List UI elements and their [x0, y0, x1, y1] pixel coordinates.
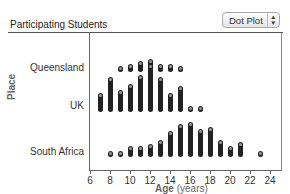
x-tick-label: 20: [220, 175, 240, 186]
x-tick-label: 24: [260, 175, 280, 186]
dot-column: [238, 142, 243, 157]
x-tick-label: 22: [240, 175, 260, 186]
dot-column: [138, 146, 143, 157]
dot-column: [138, 61, 143, 72]
x-tick-label: 10: [120, 175, 140, 186]
dot-column: [168, 64, 173, 72]
x-axis-label: Age: [155, 183, 174, 194]
dot-column: [168, 131, 173, 157]
plot-type-dropdown[interactable]: Dot Plot ▲▼: [222, 12, 280, 28]
dot-column: [98, 93, 103, 112]
x-tick: [90, 171, 91, 174]
plot-type-value: Dot Plot: [229, 15, 263, 26]
x-tick-label: 6: [80, 175, 100, 186]
dot-column: [118, 66, 123, 72]
x-tick: [110, 171, 111, 174]
dot-column: [228, 146, 233, 157]
x-tick: [170, 171, 171, 174]
dot-column: [198, 129, 203, 157]
dot-column: [128, 64, 133, 72]
dot-column: [108, 77, 113, 112]
dot-column: [208, 127, 213, 157]
dot-column: [118, 151, 123, 157]
dot-column: [188, 122, 193, 157]
dot-column: [158, 77, 163, 112]
dot-column: [118, 90, 123, 112]
x-axis-title: Age (years): [155, 183, 208, 194]
dot-column: [188, 106, 193, 112]
y-label-queensland: Queensland: [30, 62, 84, 73]
dot-column: [178, 86, 183, 112]
dot-column: [218, 140, 223, 157]
dot-column: [148, 144, 153, 157]
x-tick: [190, 171, 191, 174]
dot-column: [198, 106, 203, 112]
x-tick-label: 8: [100, 175, 120, 186]
dot-column: [178, 124, 183, 157]
dot-column: [138, 75, 143, 112]
dot-column: [158, 64, 163, 72]
x-tick: [150, 171, 151, 174]
y-label-south-africa: South Africa: [30, 146, 84, 157]
x-tick: [250, 171, 251, 174]
dot-column: [128, 146, 133, 157]
dot-column: [158, 140, 163, 157]
dot-column: [128, 84, 133, 112]
dot-column: [178, 66, 183, 72]
x-tick: [210, 171, 211, 174]
y-axis-title: Place: [6, 74, 17, 100]
dot-column: [258, 151, 263, 157]
dot-column: [148, 64, 153, 112]
updown-arrows-icon: ▲▼: [267, 13, 279, 27]
dot-column: [108, 151, 113, 157]
x-tick: [270, 171, 271, 174]
chart-title: Participating Students: [10, 19, 107, 30]
y-label-uk: UK: [70, 100, 84, 111]
x-axis-unit: (years): [177, 183, 208, 194]
dot-column: [168, 93, 173, 112]
x-tick: [130, 171, 131, 174]
x-tick: [230, 171, 231, 174]
